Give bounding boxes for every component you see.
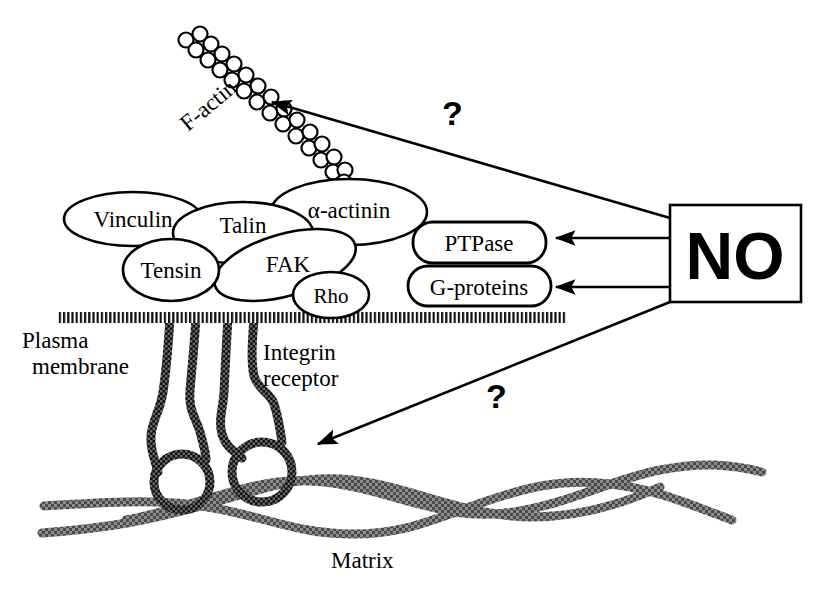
arrow-no-to-integrin (318, 302, 670, 444)
label-plasma-membrane-line2: membrane (32, 354, 129, 379)
diagram-canvas: F-actin Vinculin Talin α-actinin Tensin … (0, 0, 823, 595)
integrin-subunit-alpha-b (190, 318, 206, 460)
label-plasma-membrane-line1: Plasma (22, 328, 88, 353)
label-rho: Rho (313, 284, 348, 308)
label-talin: Talin (220, 213, 267, 238)
question-mark-lower: ? (486, 377, 507, 415)
integrin-subunit-alpha (151, 318, 170, 472)
diagram-svg: F-actin Vinculin Talin α-actinin Tensin … (0, 0, 823, 595)
label-tensin: Tensin (141, 258, 202, 283)
label-matrix: Matrix (331, 548, 394, 573)
label-integrin-receptor-line2: receptor (263, 366, 339, 391)
label-vinculin: Vinculin (93, 207, 173, 232)
label-f-actin: F-actin (175, 74, 241, 135)
matrix-group (42, 465, 762, 534)
question-mark-upper: ? (442, 94, 463, 132)
label-no: NO (686, 219, 785, 293)
label-alpha-actinin: α-actinin (308, 198, 391, 223)
integrin-subunit-beta (220, 318, 242, 458)
label-ptpase: PTPase (445, 231, 514, 256)
label-g-proteins: G-proteins (430, 275, 528, 300)
label-fak: FAK (266, 252, 311, 277)
label-integrin-receptor-line1: Integrin (263, 340, 336, 365)
